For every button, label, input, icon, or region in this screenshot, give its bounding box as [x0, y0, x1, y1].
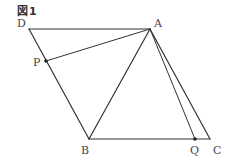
segment-AB [89, 29, 150, 139]
point-Q-marker [193, 137, 197, 141]
label-C: C [213, 145, 221, 156]
segment-DB [29, 29, 89, 139]
label-A: A [154, 18, 162, 29]
label-Q: Q [190, 145, 199, 156]
segment-AQ [150, 29, 195, 139]
point-P-marker [44, 59, 48, 63]
rhombus-diagram [0, 0, 235, 161]
segment-AC [150, 29, 210, 139]
label-B: B [81, 145, 89, 156]
label-P: P [33, 57, 40, 68]
label-D: D [17, 18, 26, 29]
